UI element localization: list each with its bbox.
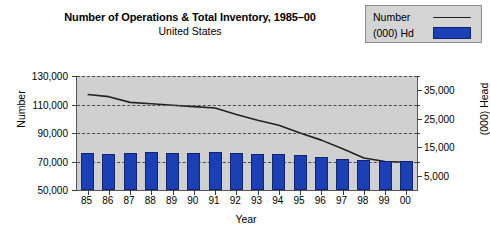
y-axis-tick-left [72,133,77,134]
x-axis-tick-label: 86 [102,195,113,206]
x-axis-tick [215,190,216,195]
x-axis-tick [300,190,301,195]
bar [81,153,94,190]
x-axis-tick-label: 89 [166,195,177,206]
y-axis-minor-tick-right [417,133,420,134]
gridline [77,105,417,106]
x-axis-tick-label: 96 [315,195,326,206]
x-axis-labels: 85868788899091929394959697989900 [76,195,416,209]
y-axis-tick-left [72,105,77,106]
x-axis-tick-label: 99 [379,195,390,206]
y-axis-tick-left [72,190,77,191]
y-axis-minor-tick-right [417,76,420,77]
y-axis-left-tick-label: 130,000 [32,71,68,82]
bar [315,157,328,190]
x-axis-tick [258,190,259,195]
y-axis-tick-left [72,76,77,77]
x-axis-tick [194,190,195,195]
x-axis-tick-label: 97 [336,195,347,206]
y-axis-tick-right [417,119,422,120]
x-axis-tick-label: 87 [124,195,135,206]
x-axis-tick [279,190,280,195]
y-axis-right-labels: 5,00015,00025,00035,000 [424,76,478,190]
bar [357,160,370,190]
bar [251,154,264,190]
x-axis-tick [406,190,407,195]
bar [294,155,307,190]
y-axis-tick-right [417,147,422,148]
bar [102,154,115,190]
y-axis-left-labels: 50,00070,00090,000110,000130,000 [10,76,68,190]
bar [400,161,413,190]
y-axis-right-tick-label: 15,000 [424,142,455,153]
bar [209,152,222,190]
y-axis-tick-left [72,162,77,163]
y-axis-left-tick-label: 90,000 [37,128,68,139]
bar [379,161,392,190]
x-axis-tick [88,190,89,195]
x-axis-tick-label: 93 [251,195,262,206]
x-axis-tick-label: 88 [145,195,156,206]
x-axis-tick [343,190,344,195]
x-axis-tick-label: 91 [209,195,220,206]
y-axis-title-right: (000) Head [478,69,490,149]
y-axis-minor-tick-right [417,162,420,163]
x-axis-tick-label: 92 [230,195,241,206]
x-axis-tick [385,190,386,195]
y-axis-minor-tick-right [417,105,420,106]
y-axis-tick-right [417,176,422,177]
x-axis-tick-label: 94 [272,195,283,206]
gridline [77,76,417,77]
bar [230,153,243,190]
x-axis-tick [151,190,152,195]
plot-area [76,76,418,191]
x-axis-tick [364,190,365,195]
x-axis-title: Year [76,213,416,225]
x-axis-tick [130,190,131,195]
x-axis-tick-label: 90 [187,195,198,206]
y-axis-left-tick-label: 70,000 [37,156,68,167]
x-axis-tick-label: 85 [81,195,92,206]
x-axis-tick [109,190,110,195]
gridline [77,133,417,134]
x-axis-tick [173,190,174,195]
x-axis-tick-label: 00 [400,195,411,206]
x-axis-tick-label: 98 [357,195,368,206]
bar [166,153,179,190]
y-axis-right-tick-label: 25,000 [424,113,455,124]
bar [145,152,158,190]
y-axis-tick-right [417,90,422,91]
bar [272,154,285,190]
y-axis-right-tick-label: 5,000 [424,170,449,181]
x-axis-tick-label: 95 [294,195,305,206]
bar [187,153,200,190]
chart-plot-wrapper: Number (000) Head Year 50,00070,00090,00… [0,0,490,240]
y-axis-right-tick-label: 35,000 [424,85,455,96]
y-axis-left-tick-label: 50,000 [37,185,68,196]
y-axis-left-tick-label: 110,000 [33,99,68,110]
x-axis-tick [321,190,322,195]
bar [124,153,137,190]
x-axis-tick [236,190,237,195]
bar [336,159,349,190]
